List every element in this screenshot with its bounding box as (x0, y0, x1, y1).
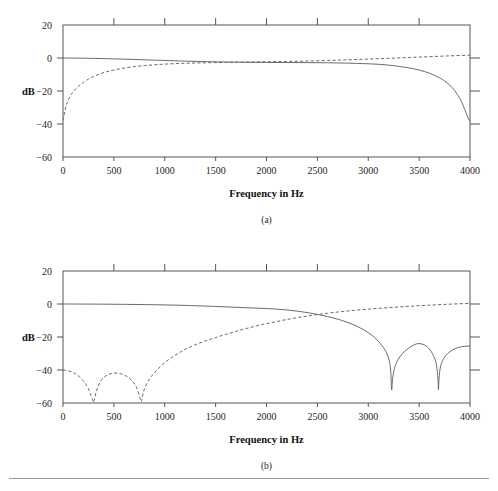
x-tick-label: 4000 (460, 165, 480, 176)
x-tick-label: 2500 (307, 411, 327, 422)
x-tick-label: 3500 (409, 165, 429, 176)
panel-caption: (b) (261, 461, 272, 472)
x-tick-label: 4000 (460, 411, 480, 422)
plot-frame (63, 271, 470, 403)
curve-highpass-dashed (63, 303, 470, 402)
y-tick-label: −60 (36, 152, 52, 163)
x-tick-label: 1500 (206, 411, 226, 422)
figure-container: 05001000150020002500300035004000200−20−4… (0, 0, 498, 491)
x-tick-label: 1000 (155, 411, 175, 422)
chart-panel-a: 05001000150020002500300035004000200−20−4… (0, 0, 498, 245)
y-tick-label: −60 (36, 398, 52, 409)
x-tick-label: 0 (61, 411, 66, 422)
footer-divider (9, 478, 489, 479)
y-tick-label: 20 (42, 20, 52, 31)
x-tick-label: 2000 (257, 165, 277, 176)
y-axis-label: dB (22, 86, 35, 97)
x-tick-label: 3000 (358, 411, 378, 422)
chart-svg-b: 05001000150020002500300035004000200−20−4… (0, 246, 498, 491)
panel-caption: (a) (261, 215, 272, 226)
curve-lowpass-solid (63, 304, 470, 390)
y-tick-label: −20 (36, 86, 52, 97)
y-tick-label: 0 (47, 53, 52, 64)
y-tick-label: 20 (42, 266, 52, 277)
x-tick-label: 1000 (155, 165, 175, 176)
y-tick-label: −40 (36, 365, 52, 376)
y-tick-label: −20 (36, 332, 52, 343)
x-axis-label: Frequency in Hz (229, 188, 304, 199)
chart-svg-a: 05001000150020002500300035004000200−20−4… (0, 0, 498, 245)
x-tick-label: 500 (106, 411, 121, 422)
y-tick-label: −40 (36, 119, 52, 130)
x-tick-label: 0 (61, 165, 66, 176)
x-tick-label: 2500 (307, 165, 327, 176)
chart-panel-b: 05001000150020002500300035004000200−20−4… (0, 246, 498, 491)
x-axis-label: Frequency in Hz (229, 434, 304, 445)
x-tick-label: 3000 (358, 165, 378, 176)
curve-highpass-dashed (63, 55, 470, 121)
x-tick-label: 500 (106, 165, 121, 176)
x-tick-label: 3500 (409, 411, 429, 422)
x-tick-label: 2000 (257, 411, 277, 422)
y-tick-label: 0 (47, 299, 52, 310)
y-axis-label: dB (22, 332, 35, 343)
x-tick-label: 1500 (206, 165, 226, 176)
plot-frame (63, 25, 470, 157)
curve-lowpass-solid (63, 58, 470, 121)
